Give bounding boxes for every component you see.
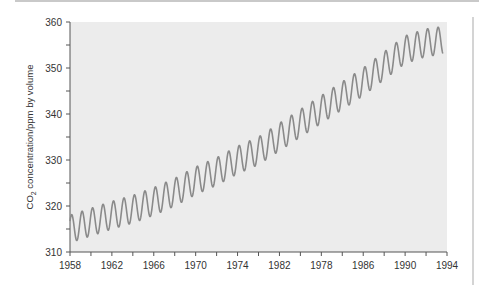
y-tick-label: 350 — [45, 63, 62, 74]
x-tick-label: 1994 — [436, 260, 459, 271]
y-tick-label: 340 — [45, 109, 62, 120]
x-tick-label: 1966 — [143, 260, 166, 271]
plot-area — [70, 22, 447, 252]
x-tick-label: 1974 — [226, 260, 249, 271]
x-tick-label: 1962 — [101, 260, 124, 271]
x-tick-label: 1990 — [394, 260, 417, 271]
co2-line-chart: 3103203303403503601958196219661970197419… — [0, 0, 479, 285]
x-tick-label: 1970 — [185, 260, 208, 271]
y-tick-label: 310 — [45, 247, 62, 258]
x-tick-label: 1958 — [59, 260, 82, 271]
x-tick-label: 1986 — [352, 260, 375, 271]
y-axis-title: CO2 concentration/ppm by volume — [24, 65, 37, 210]
y-tick-label: 360 — [45, 17, 62, 28]
y-tick-label: 320 — [45, 201, 62, 212]
y-tick-label: 330 — [45, 155, 62, 166]
x-tick-label: 1978 — [310, 260, 333, 271]
x-tick-label: 1982 — [268, 260, 291, 271]
